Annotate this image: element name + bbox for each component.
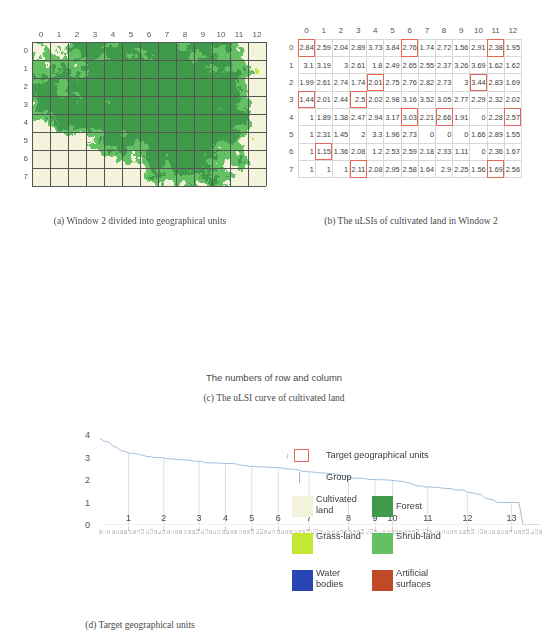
legend-label-grassland: Grass-land xyxy=(316,531,368,542)
table-cell: 2.08 xyxy=(367,160,384,177)
map-row-label: 4 xyxy=(18,118,28,127)
grid-line-horizontal xyxy=(32,132,266,133)
table-cell: 0 xyxy=(436,126,453,143)
panel-b-table: 012345678910111202.842.592.042.893.733.8… xyxy=(285,22,522,178)
x-tick-label: 7-10 xyxy=(197,529,200,534)
grid-line-horizontal xyxy=(32,150,266,151)
legend-label-cultivated-land: Cultivated land xyxy=(316,494,368,515)
x-tick-label: 0-0 xyxy=(100,530,103,534)
x-tick-label: 2-5 xyxy=(176,530,179,534)
table-cell: 2.04 xyxy=(332,39,349,56)
table-cell: 2.95 xyxy=(384,160,401,177)
table-cell: 2.98 xyxy=(384,91,401,108)
x-tick-label: 6-6 xyxy=(125,530,128,534)
map-col-label: 12 xyxy=(251,30,263,39)
table-cell: 2.01 xyxy=(367,74,384,91)
x-tick-label: 2-2 xyxy=(108,530,111,534)
x-tick-label: 7-7 xyxy=(130,530,133,534)
x-tick-label: 1-1 xyxy=(104,530,107,534)
table-cell: 2.21 xyxy=(418,108,435,125)
table-cell: 2.53 xyxy=(384,143,401,160)
table-cell: 3 xyxy=(332,57,349,74)
table-cell: 1.99 xyxy=(298,74,315,91)
map-col-label: 3 xyxy=(89,30,101,39)
table-cell: 1.2 xyxy=(367,143,384,160)
x-tick-label: 4-7 xyxy=(185,530,188,534)
table-cell: 3.44 xyxy=(470,74,487,91)
table-cell: 1.56 xyxy=(453,39,470,56)
table-cell: 3.84 xyxy=(384,39,401,56)
map-row-label: 7 xyxy=(18,172,28,181)
x-tick-label: 6-4 xyxy=(227,530,230,534)
caption-panel-a: (a) Window 2 divided into geographical u… xyxy=(14,216,266,226)
table-cell: 2.77 xyxy=(453,91,470,108)
map-col-label: 11 xyxy=(233,30,245,39)
x-tick-label: 0-6 xyxy=(235,530,238,534)
grid-line-horizontal xyxy=(32,78,266,79)
table-cell: 1.96 xyxy=(384,126,401,143)
x-tick-label: 4-10 xyxy=(252,529,255,534)
table-cell: 2.89 xyxy=(350,39,367,56)
table-cell: 2.32 xyxy=(487,91,504,108)
x-tick-label: 3-11 xyxy=(147,529,150,534)
table-cell: 1 xyxy=(298,126,315,143)
table-cell: 0 xyxy=(453,126,470,143)
table-cell: 2.59 xyxy=(315,39,332,56)
table-cell: 1 xyxy=(298,108,315,125)
x-tick-label: 3-3 xyxy=(113,530,116,534)
table-cell: 3.3 xyxy=(367,126,384,143)
table-cell: 1 xyxy=(298,143,315,160)
table-cell: 3.05 xyxy=(436,91,453,108)
legend-label-shrubland: Shrub-land xyxy=(396,531,448,542)
table-cell: 2.31 xyxy=(315,126,332,143)
table-cell: 2.01 xyxy=(315,91,332,108)
map-col-label: 2 xyxy=(71,30,83,39)
map-col-label: 8 xyxy=(179,30,191,39)
x-tick-label: 5-8 xyxy=(189,530,192,534)
y-tick-label: 4 xyxy=(78,430,90,440)
table-col-header: 10 xyxy=(470,22,487,39)
x-axis-title: The numbers of row and column xyxy=(14,372,534,383)
group-number-label: 4 xyxy=(218,513,232,523)
table-cell: 1.69 xyxy=(504,74,521,91)
group-number-label: 1 xyxy=(122,513,136,523)
panel-a-map: 012345678910111201234567 xyxy=(14,14,266,204)
table-row-header: 6 xyxy=(285,143,298,160)
caption-panel-b: (b) The uLSIs of cultivated land in Wind… xyxy=(281,216,541,226)
table-cell: 2.47 xyxy=(350,108,367,125)
caption-panel-d: (d) Target geographical units xyxy=(14,620,266,630)
table-cell: 2.9 xyxy=(436,160,453,177)
table-cell: 2.76 xyxy=(401,39,418,56)
map-row-label: 3 xyxy=(18,100,28,109)
table-row: 512.311.4523.31.962.730001.662.891.55 xyxy=(285,126,521,143)
table-cell: 2.82 xyxy=(418,74,435,91)
table-cell: 1.74 xyxy=(350,74,367,91)
map-col-label: 0 xyxy=(35,30,47,39)
table-col-header: 11 xyxy=(487,22,504,39)
table-cell: 1.44 xyxy=(298,91,315,108)
table-cell: 2.58 xyxy=(401,160,418,177)
table-col-header: 6 xyxy=(401,22,418,39)
table-cell: 2.74 xyxy=(332,74,349,91)
table-cell: 2.56 xyxy=(504,160,521,177)
table-cell: 0 xyxy=(470,108,487,125)
table-cell: 1.8 xyxy=(367,57,384,74)
table-col-header: 7 xyxy=(418,22,435,39)
grid-line-vertical xyxy=(266,42,267,186)
y-tick-label: 1 xyxy=(78,498,90,508)
table-row-header: 3 xyxy=(285,91,298,108)
x-tick-label: 5-3 xyxy=(223,530,226,534)
table-col-header: 4 xyxy=(367,22,384,39)
table-cell: 2.37 xyxy=(436,57,453,74)
map-col-label: 1 xyxy=(53,30,65,39)
grid-line-horizontal xyxy=(32,60,266,61)
table-cell: 1.95 xyxy=(504,39,521,56)
x-tick-label: 3-1 xyxy=(214,530,217,534)
legend-swatch-water-bodies xyxy=(292,570,313,591)
table-cell: 2 xyxy=(350,126,367,143)
table-cell: 2.28 xyxy=(487,108,504,125)
table-cell: 2.73 xyxy=(401,126,418,143)
table-cell: 2.57 xyxy=(504,108,521,125)
x-tick-label: 1-4 xyxy=(172,530,175,534)
x-tick-label: 0-1 xyxy=(269,530,272,534)
